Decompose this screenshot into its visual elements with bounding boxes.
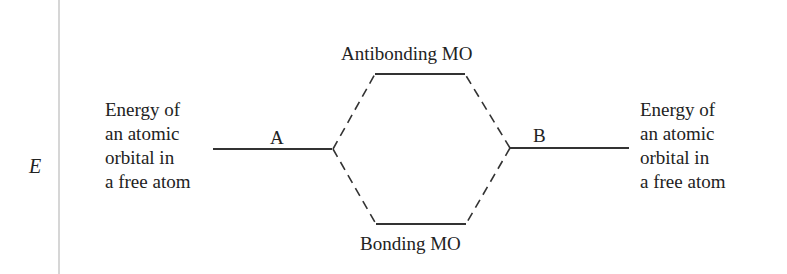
a-to-antibonding-connector [333, 74, 375, 149]
a-to-bonding-connector [333, 149, 376, 224]
mo-diagram-lines [0, 0, 787, 274]
b-to-antibonding-connector [465, 74, 510, 148]
b-to-bonding-connector [466, 148, 510, 224]
